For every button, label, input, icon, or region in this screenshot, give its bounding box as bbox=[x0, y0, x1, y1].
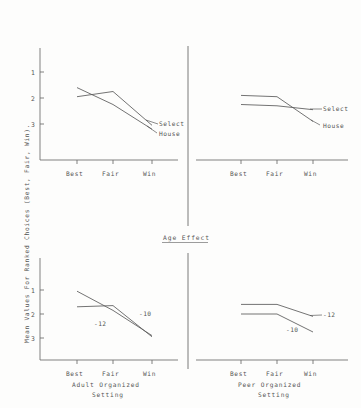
panel-top-left: 1 2 3 Best Fair Win Select House bbox=[31, 48, 184, 177]
series-label-select-top-left: Select bbox=[159, 120, 184, 127]
series-line-age12-bottom-right bbox=[241, 304, 313, 316]
xtick-label-bottom-right-fair: Fair bbox=[266, 370, 283, 377]
series-line-house-top-left bbox=[77, 88, 152, 130]
series-line-select-top-left bbox=[77, 92, 152, 126]
xtick-label-top-left-win: Win bbox=[143, 170, 156, 177]
panel-label-peer-line1: Peer Organized bbox=[238, 381, 301, 389]
series-label-age10-bottom-left: -10 bbox=[139, 310, 151, 317]
axis-top-left bbox=[40, 48, 178, 160]
series-label-age10-bottom-right: -10 bbox=[286, 326, 298, 333]
series-line-select-top-right bbox=[241, 105, 313, 110]
xtick-label-bottom-left-fair: Fair bbox=[102, 370, 119, 377]
panel-label-peer-line2: Setting bbox=[258, 391, 290, 399]
panel-top-right: Best Fair Win Select House bbox=[196, 95, 348, 177]
series-label-age12-bottom-left: -12 bbox=[94, 320, 106, 327]
xtick-label-top-left-best: Best bbox=[66, 170, 83, 177]
ytick-label-2: 2 bbox=[31, 95, 35, 103]
leader-house-top-right bbox=[311, 120, 320, 125]
series-label-age12-bottom-right: -12 bbox=[323, 311, 335, 318]
ytick-label-1: 1 bbox=[31, 69, 35, 77]
panel-label-adult-line1: Adult Organized bbox=[72, 381, 140, 389]
leader-house-top-left bbox=[147, 126, 157, 133]
age-effect-label: Age Effect bbox=[163, 234, 210, 242]
xtick-label-bottom-right-best: Best bbox=[230, 370, 247, 377]
xtick-label-top-left-fair: Fair bbox=[102, 170, 119, 177]
series-line-age10-bottom-right bbox=[241, 314, 313, 332]
series-label-select-top-right: Select bbox=[323, 105, 348, 112]
xtick-label-bottom-left-best: Best bbox=[66, 370, 83, 377]
series-label-house-top-right: House bbox=[323, 122, 344, 129]
panel-bottom-right: Best Fair Win -12 -10 Peer Organized Set… bbox=[196, 304, 348, 399]
ytick-label-bottom-2: 2 bbox=[31, 311, 35, 319]
xtick-label-bottom-left-win: Win bbox=[143, 370, 156, 377]
xtick-label-bottom-right-win: Win bbox=[304, 370, 317, 377]
y-axis-label: Mean Values For Ranked Choices (Best, Fa… bbox=[23, 124, 30, 343]
axis-bottom-left bbox=[40, 258, 178, 360]
ytick-label-bottom-3: 3 bbox=[31, 335, 35, 343]
ytick-label-bottom-1: 1 bbox=[31, 287, 35, 295]
leader-age12-bottom-right bbox=[310, 315, 322, 316]
chart-figure: Mean Values For Ranked Choices (Best, Fa… bbox=[0, 0, 361, 408]
panel-bottom-left: 1 2 3 Best Fair Win -12 -10 Adult Organi… bbox=[31, 258, 178, 399]
figure-root: Mean Values For Ranked Choices (Best, Fa… bbox=[0, 0, 361, 408]
panel-label-adult-line2: Setting bbox=[92, 391, 124, 399]
xtick-label-top-right-fair: Fair bbox=[266, 170, 283, 177]
ytick-label-3: 3 bbox=[31, 121, 35, 129]
xtick-label-top-right-best: Best bbox=[230, 170, 247, 177]
series-label-house-top-left: House bbox=[159, 130, 180, 137]
xtick-label-top-right-win: Win bbox=[304, 170, 317, 177]
